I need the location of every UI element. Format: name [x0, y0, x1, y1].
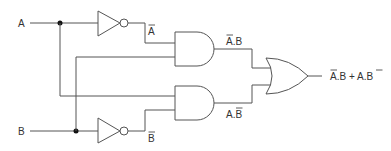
not-gate-a-bubble — [120, 19, 128, 27]
and1-output-label: A.B — [226, 36, 242, 47]
wire-a-to-and2 — [60, 23, 175, 96]
input-a-label: A — [18, 18, 25, 29]
wire-and2-to-or — [214, 85, 272, 103]
and-gate-1 — [175, 32, 214, 66]
not-b-label: B — [148, 133, 155, 144]
input-b-label: B — [18, 126, 25, 137]
or-output-label: A.B + A.B — [330, 71, 373, 82]
not-a-label: A — [148, 26, 155, 37]
and-gate-2 — [175, 86, 214, 120]
not-gate-a — [98, 11, 120, 36]
wire-b-to-and1 — [76, 57, 175, 131]
and2-output-label: A.B — [226, 109, 242, 120]
wire-and1-to-or — [214, 49, 272, 68]
not-gate-b-bubble — [120, 127, 128, 135]
not-gate-b — [98, 118, 120, 143]
logic-circuit-diagram: A A B B A.B A.B A.B + A.B — [0, 0, 391, 151]
or-gate — [266, 58, 308, 94]
wire-not-b-to-and2 — [128, 110, 175, 131]
